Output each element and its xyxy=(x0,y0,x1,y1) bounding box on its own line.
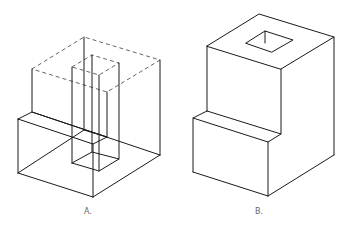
figure-b-step-top xyxy=(193,111,281,142)
figure-a-top-hidden-outline xyxy=(32,37,160,92)
figure-b-top-face xyxy=(207,14,334,69)
figure-a-hole-bottom xyxy=(72,152,119,171)
figure-a-base-front xyxy=(18,173,93,197)
figure-a-base-right xyxy=(93,155,160,197)
figure-a-wireframe xyxy=(18,37,160,197)
figure-b-square-hole xyxy=(246,31,293,52)
figure-a-label: A. xyxy=(84,207,92,216)
figure-b-label: B. xyxy=(255,207,263,216)
figure-a-step-top xyxy=(18,112,107,144)
figure-b-base-front xyxy=(193,172,268,196)
figure-b-base-right xyxy=(268,155,334,196)
figure-a-hole-top-hidden xyxy=(72,55,119,75)
figure-a-base-hidden-diag xyxy=(18,130,84,173)
figure-b-solid xyxy=(193,14,334,196)
figure-a-mid-edge xyxy=(84,130,107,137)
isometric-drawings xyxy=(0,0,348,232)
